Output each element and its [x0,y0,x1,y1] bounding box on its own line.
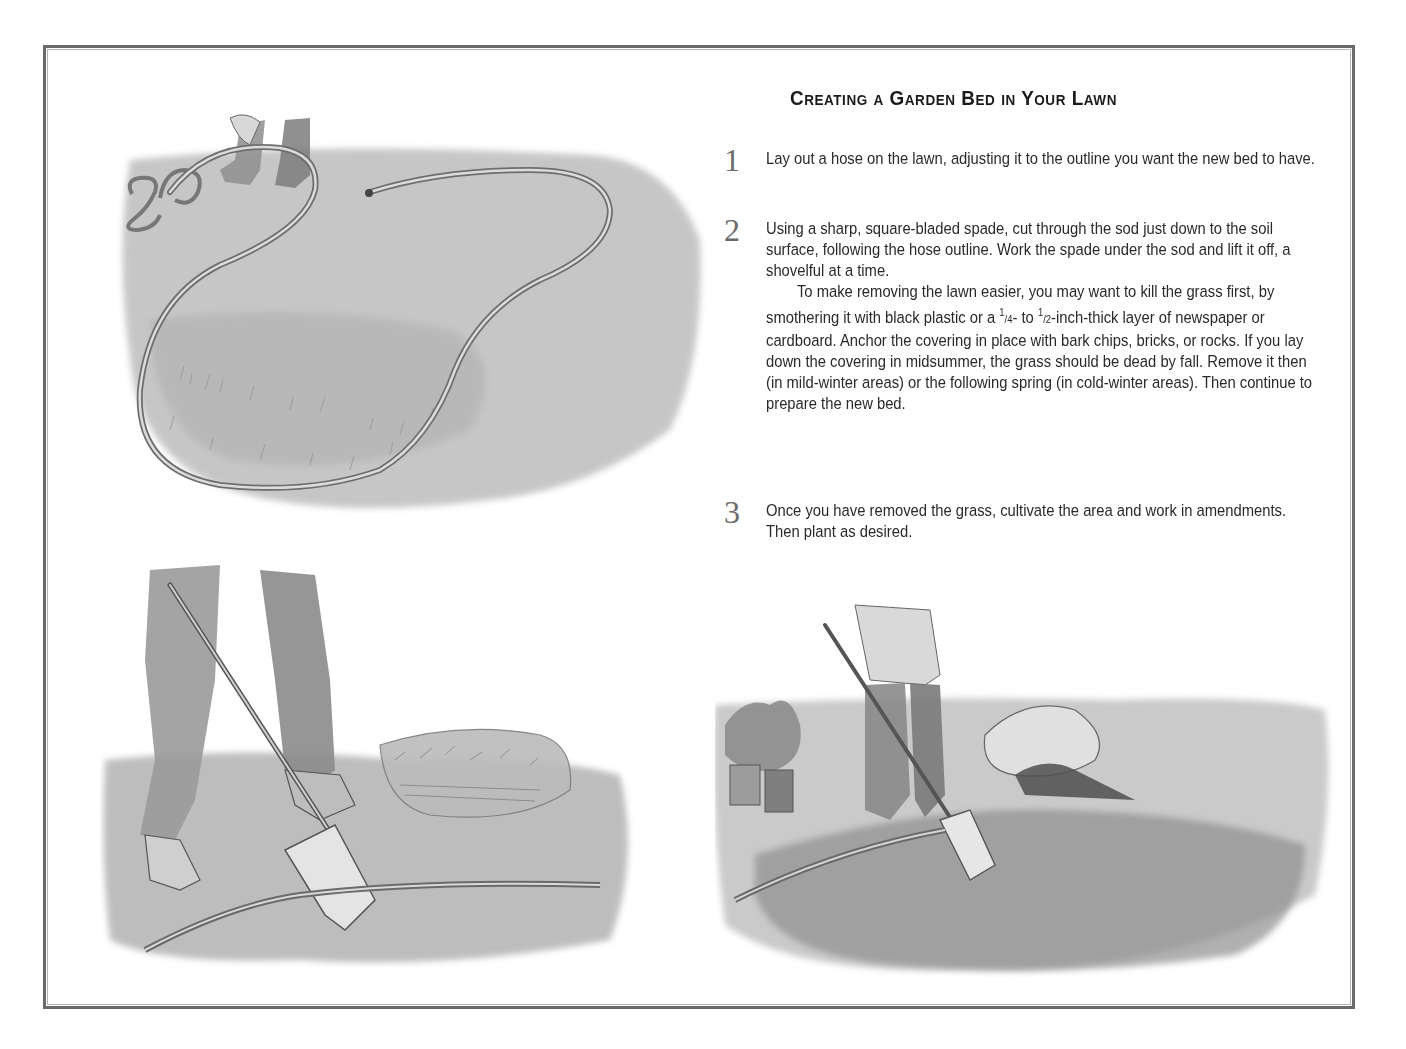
page-title: Creating a Garden Bed in Your Lawn [790,86,1117,110]
text-run: - to [1012,307,1037,327]
step-number: 2 [724,214,740,246]
step-paragraph: Once you have removed the grass, cultiva… [766,500,1286,541]
fraction-denominator: /4 [1005,313,1013,325]
step-number: 1 [724,144,740,176]
step-text: Lay out a hose on the lawn, adjusting it… [766,148,1316,169]
illustration-cultivating-bed [715,595,1340,980]
illustration-cutting-sod [100,560,660,980]
spade-cutting-sod-drawing [100,560,660,980]
step-number: 3 [724,496,740,528]
step-paragraph: Lay out a hose on the lawn, adjusting it… [766,148,1315,168]
step-paragraph: Using a sharp, square-bladed spade, cut … [766,218,1291,280]
cultivating-soil-drawing [715,595,1340,980]
step-text: Once you have removed the grass, cultiva… [766,500,1316,542]
illustration-hose-outline [110,100,710,540]
step-text: Using a sharp, square-bladed spade, cut … [766,218,1316,414]
fraction-denominator: /2 [1043,313,1051,325]
step-paragraph-continued: To make removing the lawn easier, you ma… [766,281,1316,414]
hose-on-lawn-drawing [110,100,710,540]
